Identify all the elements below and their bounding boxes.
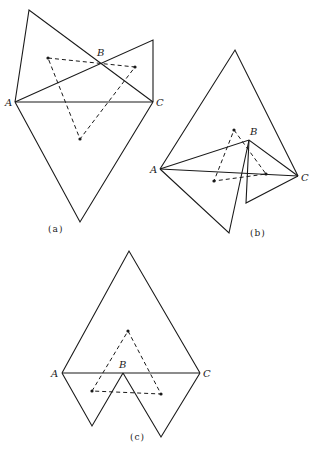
vertex-label-b: B — [96, 47, 104, 58]
centroid-point — [133, 65, 136, 68]
edge — [62, 251, 200, 373]
vertex-label-b: B — [249, 126, 257, 137]
figure-c-vertex-labels: A B C — [50, 359, 211, 379]
figure-a: A B C (a) — [4, 10, 164, 234]
figure-a-vertex-labels: A B C — [4, 47, 164, 108]
edge — [15, 102, 153, 222]
vertex-label-c: C — [301, 172, 309, 183]
geometry-diagram: A B C (a) A B C (b) A B C (c) — [0, 0, 318, 455]
figure-b: A B C (b) — [149, 50, 309, 238]
edge — [123, 373, 200, 437]
figure-a-caption: (a) — [48, 224, 63, 234]
centroid-point — [78, 137, 81, 140]
figure-a-edges — [15, 10, 153, 222]
vertex-label-a: A — [4, 97, 12, 108]
centroid-point — [212, 179, 215, 182]
vertex-label-a: A — [149, 164, 157, 175]
figure-c-caption: (c) — [130, 432, 145, 442]
vertex-label-a: A — [50, 368, 58, 379]
centroid-point — [159, 392, 162, 395]
figure-c-edges — [62, 251, 200, 437]
vertex-label-c: C — [156, 97, 164, 108]
vertex-label-b: B — [118, 359, 126, 370]
edge — [246, 140, 298, 203]
centroid-point — [232, 128, 235, 131]
dashed-triangle — [92, 331, 161, 394]
edge — [15, 10, 153, 102]
centroid-point — [126, 329, 129, 332]
vertex-label-c: C — [203, 368, 211, 379]
figure-c: A B C (c) — [50, 251, 211, 442]
figure-c-dashed-triangle — [90, 329, 162, 395]
centroid-point — [90, 389, 93, 392]
figure-b-caption: (b) — [250, 228, 266, 238]
edge — [160, 169, 298, 176]
edge — [62, 373, 123, 426]
centroid-point — [46, 56, 49, 59]
dashed-triangle — [48, 58, 135, 139]
figure-b-vertex-labels: A B C — [149, 126, 309, 183]
centroid-point — [264, 172, 267, 175]
edge — [160, 50, 298, 176]
figure-a-dashed-triangle — [46, 56, 136, 140]
